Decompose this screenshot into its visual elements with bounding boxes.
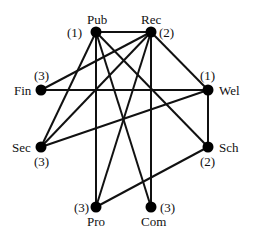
edges [41, 32, 208, 207]
degree-label-pub: (1) [67, 25, 82, 40]
node-sch [203, 142, 214, 153]
node-label-com: Com [141, 214, 166, 229]
node-pub [91, 27, 102, 38]
node-label-wel: Wel [219, 83, 240, 98]
node-wel [203, 85, 214, 96]
node-label-pro: Pro [87, 214, 105, 229]
node-com [146, 202, 157, 213]
node-pro [91, 202, 102, 213]
node-label-pub: Pub [87, 12, 107, 27]
node-label-fin: Fin [14, 83, 32, 98]
edge-sec-wel [41, 90, 208, 147]
degree-label-com: (3) [160, 200, 175, 215]
degree-label-wel: (1) [200, 68, 215, 83]
degree-label-pro: (3) [74, 200, 89, 215]
node-rec [146, 27, 157, 38]
degree-label-rec: (2) [159, 25, 174, 40]
node-fin [36, 85, 47, 96]
node-label-sch: Sch [219, 140, 239, 155]
degree-label-fin: (3) [34, 68, 49, 83]
graph-diagram: Pub (1) Rec (2) Fin (3) Wel (1) Sec (3) … [0, 0, 254, 238]
degree-label-sec: (3) [34, 154, 49, 169]
node-label-sec: Sec [12, 140, 31, 155]
node-sec [36, 142, 47, 153]
degree-label-sch: (2) [200, 154, 215, 169]
